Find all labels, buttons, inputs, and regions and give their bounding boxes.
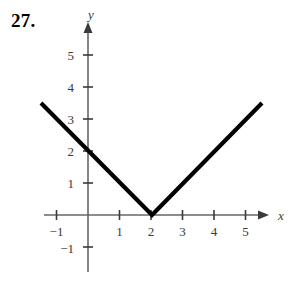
y-tick-label-5: 5 — [68, 48, 75, 63]
x-tick-label-1: 1 — [116, 224, 123, 239]
x-tick-label-3: 3 — [179, 224, 186, 239]
y-axis-label: y — [86, 7, 94, 22]
x-axis-label: x — [277, 208, 284, 223]
x-tick-labels: −1 1 2 3 4 5 — [50, 224, 249, 239]
x-tick-label--1: −1 — [50, 224, 64, 239]
math-figure: 27. −1 — [0, 0, 299, 283]
absolute-value-curve — [41, 103, 262, 215]
x-axis-arrow-icon — [258, 211, 269, 220]
y-axis-arrow-icon — [84, 22, 93, 33]
y-tick-label-4: 4 — [68, 80, 75, 95]
axes-group — [44, 22, 269, 272]
graph-plot: −1 1 2 3 4 5 5 4 3 2 1 −1 x y — [0, 0, 299, 283]
x-tick-label-4: 4 — [211, 224, 218, 239]
y-tick-label-3: 3 — [68, 112, 75, 127]
y-tick-label-1: 1 — [68, 176, 75, 191]
y-tick-label--1: −1 — [60, 241, 74, 256]
x-tick-label-2: 2 — [148, 224, 155, 239]
x-tick-label-5: 5 — [242, 224, 249, 239]
y-tick-label-2: 2 — [68, 144, 75, 159]
